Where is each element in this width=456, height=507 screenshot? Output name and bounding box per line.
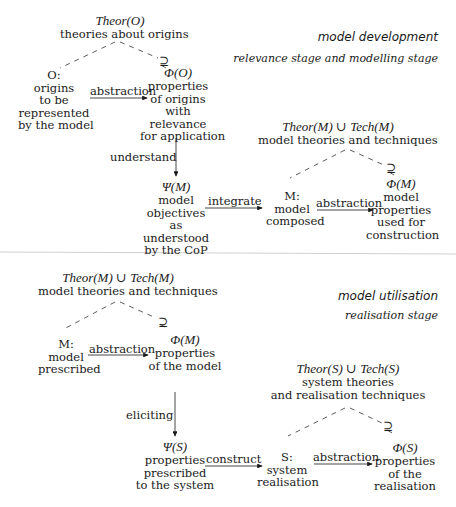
node-m-composed: M: model composed <box>266 190 318 228</box>
node-phi-m-dev: Φ(M) model properties used for construct… <box>366 177 436 241</box>
dashed-line-theor-m-to-m <box>290 150 345 178</box>
label-eliciting: eliciting <box>126 409 173 421</box>
dashed-line-theor-m-to-phi-m <box>350 150 386 166</box>
node-theor-m-util: Theor(M) ∪ Tech(M) model theories and te… <box>38 271 198 298</box>
dashed-line-util-theor-m-to-phi-m <box>120 302 156 318</box>
node-phi-m-util: Φ(M) properties of the model <box>145 333 225 372</box>
node-phi-s: Φ(S) properties of the realisation <box>370 441 440 493</box>
node-theor-o: Theor(O) theories about origins <box>60 14 180 41</box>
dashed-line-theor-o-to-phi-o <box>120 42 158 58</box>
stage-title-utilisation: model utilisation <box>338 289 438 303</box>
label-construct: construct <box>206 453 261 465</box>
dashed-line-theor-o-to-o <box>60 42 115 68</box>
node-phi-o: Φ(O) properties of origins with relevanc… <box>140 66 216 143</box>
label-integrate: integrate <box>208 195 262 207</box>
label-understand: understand <box>110 151 177 163</box>
supseteq-symbol: ⊇ <box>383 420 393 432</box>
section-divider <box>0 252 456 254</box>
node-theor-s: Theor(S) ∪ Tech(S) system theories and r… <box>268 362 428 401</box>
dashed-line-theor-s-to-phi-s <box>350 408 384 424</box>
node-psi-m: Ψ(M) model objectives as understood by t… <box>136 180 216 257</box>
stage-subtitle-utilisation: realisation stage <box>345 309 438 322</box>
supseteq-symbol: ⊇ <box>386 162 396 174</box>
node-o-origins: O: origins to be represented by the mode… <box>18 69 90 132</box>
node-s-realisation: S: system realisation <box>257 451 317 489</box>
node-m-prescribed: M: model prescribed <box>38 338 94 376</box>
stage-subtitle-development: relevance stage and modelling stage <box>233 52 438 65</box>
node-psi-s: Ψ(S) properties prescribed to the system <box>135 440 215 492</box>
stage-title-development: model development <box>318 30 438 44</box>
dashed-line-util-theor-m-to-m <box>62 302 115 330</box>
supseteq-symbol: ⊇ <box>158 316 168 328</box>
dashed-line-theor-s-to-s <box>288 408 345 436</box>
node-theor-m-dev: Theor(M) ∪ Tech(M) model theories and te… <box>258 120 418 147</box>
